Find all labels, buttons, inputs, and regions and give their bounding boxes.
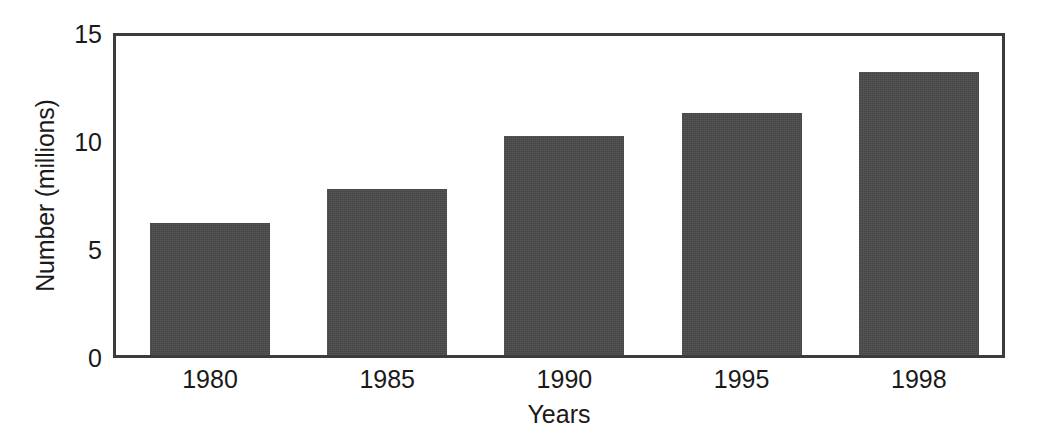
plot-area: [113, 33, 1005, 358]
x-tick-label-1998: 1998: [839, 364, 999, 394]
x-tick-label-1990: 1990: [484, 364, 644, 394]
x-tick-label-1980: 1980: [130, 364, 290, 394]
x-tick-label-1995: 1995: [662, 364, 822, 394]
bar-1980: [150, 223, 270, 355]
bar-chart: Number (millions) 15 10 5 0 198019851990…: [0, 0, 1039, 447]
y-axis-tick-labels: 15 10 5 0: [40, 0, 102, 447]
bars-layer: [116, 36, 1002, 355]
y-tick-label-15: 15: [42, 22, 102, 46]
bar-1985: [327, 189, 447, 355]
x-tick-label-1985: 1985: [307, 364, 467, 394]
y-tick-label-0: 0: [42, 346, 102, 370]
bar-1995: [682, 113, 802, 355]
x-axis-tick-labels: 19801985199019951998: [113, 364, 1005, 396]
x-axis-title: Years: [113, 399, 1005, 429]
bar-1998: [859, 72, 979, 355]
y-tick-label-5: 5: [42, 238, 102, 262]
bar-1990: [504, 136, 624, 355]
y-tick-label-10: 10: [42, 130, 102, 154]
